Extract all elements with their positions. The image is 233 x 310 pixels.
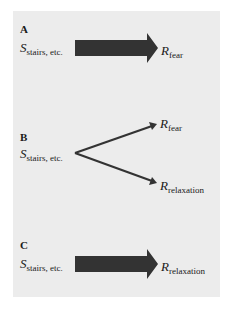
branch-arrows-b [75,122,157,185]
thick-arrow-c [75,249,158,279]
thick-arrow-a [75,33,158,63]
arrows-layer [0,0,233,310]
